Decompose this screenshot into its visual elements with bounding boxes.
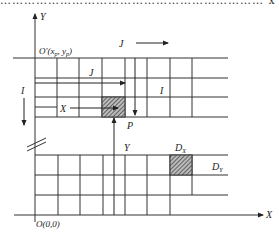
p-label: P	[126, 120, 133, 131]
i-left-label: I	[20, 85, 25, 96]
pixel-grid-diagram: Y X O(0,0) O′(xp, yp) J J I I X P Y DX D…	[0, 0, 279, 236]
i-inner-label: I	[159, 85, 164, 96]
dx-label: DX	[174, 142, 186, 154]
x-axis-label: X	[265, 209, 273, 220]
x-arrow-label: X	[59, 103, 67, 114]
axis-break-marks	[27, 138, 46, 151]
origin-label: O(0,0)	[36, 219, 60, 229]
dy-label: DY	[211, 161, 223, 173]
y-axis-label: Y	[40, 11, 47, 22]
dx-dy-cell	[170, 155, 192, 175]
j-inner-label: J	[89, 67, 94, 78]
j-top-label: J	[119, 38, 124, 49]
y-arrow-label: Y	[124, 142, 131, 153]
local-origin-label: O′(xp, yp)	[39, 46, 72, 57]
current-pixel-cell	[102, 97, 125, 117]
bottom-grid-horizontal-lines	[35, 155, 228, 195]
